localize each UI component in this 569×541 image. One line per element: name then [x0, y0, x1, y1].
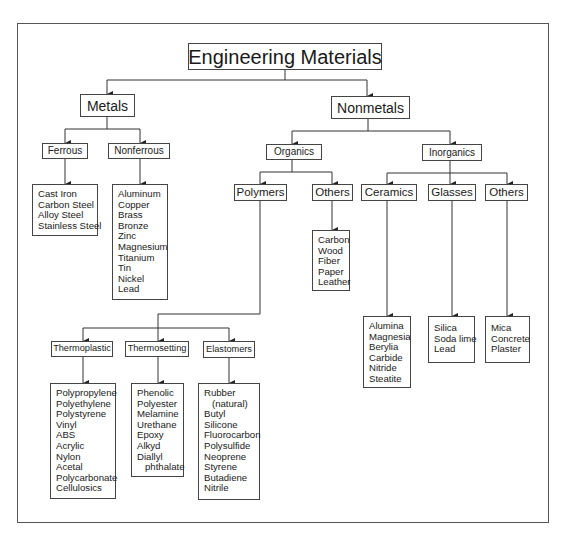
list-item: Plaster	[491, 344, 525, 355]
node-glasses: Glasses	[428, 184, 476, 201]
node-metals: Metals	[80, 94, 135, 117]
list-item: phthalate	[137, 462, 179, 473]
list-glasses: Silica Soda lime Lead	[428, 316, 475, 363]
node-ceramics: Ceramics	[361, 184, 417, 201]
list-item: Silica	[434, 323, 470, 334]
list-item: Polypropylene	[56, 388, 111, 399]
list-organics-others: Carbon Wood Fiber Paper Leather	[312, 230, 350, 291]
node-ferrous: Ferrous	[42, 143, 88, 159]
node-organics-others: Others	[312, 184, 353, 201]
list-item: Acrylic	[56, 441, 111, 452]
list-item: Magnesium	[118, 242, 163, 253]
node-inorganics: Inorganics	[422, 144, 482, 161]
list-thermoplastic: Polypropylene Polyethylene Polystyrene V…	[50, 383, 116, 499]
list-ferrous: Cast Iron Carbon Steel Alloy Steel Stain…	[32, 184, 98, 236]
list-item: Mica	[491, 323, 525, 334]
list-item: Cellulosics	[56, 483, 111, 494]
list-item: Alkyd	[137, 441, 179, 452]
list-item: Polysulfide	[204, 441, 255, 452]
list-item: Leather	[318, 277, 345, 288]
list-item: Nitrile	[204, 483, 255, 494]
list-item: Lead	[434, 344, 470, 355]
node-engineering-materials: Engineering Materials	[188, 43, 382, 70]
list-thermosetting: Phenolic Polyester Melamine Urethane Epo…	[131, 383, 184, 477]
list-item: Cast Iron	[38, 189, 93, 200]
node-organics: Organics	[266, 144, 322, 160]
list-item: Steatite	[369, 374, 406, 385]
list-item: Phenolic	[137, 388, 179, 399]
list-nonferrous: Aluminum Copper Brass Bronze Zinc Magnes…	[112, 184, 168, 300]
list-item: Rubber	[204, 388, 255, 399]
node-nonmetals: Nonmetals	[331, 96, 410, 119]
list-item: Aluminum	[118, 189, 163, 200]
list-item: Alumina	[369, 321, 406, 332]
list-item: Lead	[118, 284, 163, 295]
list-ceramics: Alumina Magnesia Berylia Carbide Nitride…	[363, 316, 411, 388]
node-polymers: Polymers	[234, 184, 287, 201]
node-inorganics-others: Others	[485, 184, 528, 201]
node-thermosetting: Thermosetting	[125, 341, 189, 357]
list-inorganics-others: Mica Concrete Plaster	[485, 316, 530, 363]
node-elastomers: Elastomers	[203, 341, 255, 358]
list-item: Stainless Steel	[38, 221, 93, 232]
list-item: Carbon	[318, 235, 345, 246]
node-thermoplastic: Thermoplastic	[51, 341, 113, 357]
node-nonferrous: Nonferrous	[108, 143, 170, 159]
list-elastomers: Rubber (natural) Butyl Silicone Fluoroca…	[198, 383, 260, 500]
